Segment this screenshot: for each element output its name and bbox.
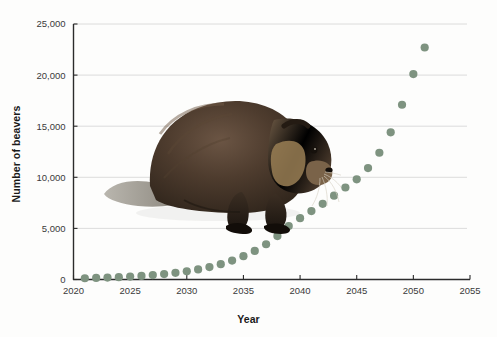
data-point <box>160 270 168 278</box>
data-point <box>251 247 259 255</box>
data-point <box>353 175 361 183</box>
x-tick-label: 2025 <box>120 285 141 296</box>
y-axis-title: Number of beavers <box>10 94 22 214</box>
data-point <box>228 256 236 264</box>
x-axis-title: Year <box>0 313 497 325</box>
beaver-population-chart: 05,00010,00015,00020,00025,000 202020252… <box>0 0 497 337</box>
data-point <box>285 222 293 230</box>
data-point <box>387 128 395 136</box>
data-point <box>115 273 123 281</box>
data-point <box>171 269 179 277</box>
data-point <box>81 274 89 282</box>
y-tick-label: 0 <box>60 274 65 285</box>
data-point <box>375 149 383 157</box>
data-point <box>330 192 338 200</box>
data-point <box>149 271 157 279</box>
data-point <box>137 272 145 280</box>
x-tick-label: 2035 <box>233 285 254 296</box>
y-tick-label: 25,000 <box>36 18 65 29</box>
chart-canvas: 05,00010,00015,00020,00025,000 202020252… <box>0 0 497 337</box>
data-point <box>341 183 349 191</box>
y-tick-label: 10,000 <box>36 172 65 183</box>
data-point <box>296 214 304 222</box>
x-tick-label: 2040 <box>290 285 311 296</box>
data-point <box>239 252 247 260</box>
x-axis-tick-labels: 20202025203020352040204520502055 <box>63 285 481 296</box>
x-tick-label: 2055 <box>459 285 480 296</box>
data-point <box>421 43 429 51</box>
data-point <box>92 274 100 282</box>
data-point <box>307 207 315 215</box>
data-point <box>103 274 111 282</box>
data-point <box>273 232 281 240</box>
data-point <box>364 164 372 172</box>
data-point <box>217 260 225 268</box>
y-tick-label: 5,000 <box>42 223 66 234</box>
y-tick-label: 15,000 <box>36 121 65 132</box>
x-tick-label: 2020 <box>63 285 84 296</box>
y-axis-tick-labels: 05,00010,00015,00020,00025,000 <box>36 18 65 285</box>
data-point <box>398 101 406 109</box>
data-point <box>194 265 202 273</box>
x-tick-label: 2030 <box>176 285 197 296</box>
data-point <box>262 240 270 248</box>
data-point <box>319 200 327 208</box>
data-points <box>81 43 429 282</box>
gridlines <box>74 24 468 228</box>
data-point <box>205 263 213 271</box>
data-point <box>183 267 191 275</box>
x-tick-label: 2045 <box>346 285 367 296</box>
y-tick-label: 20,000 <box>36 70 65 81</box>
data-point <box>126 272 134 280</box>
data-point <box>409 70 417 78</box>
x-tick-label: 2050 <box>403 285 424 296</box>
